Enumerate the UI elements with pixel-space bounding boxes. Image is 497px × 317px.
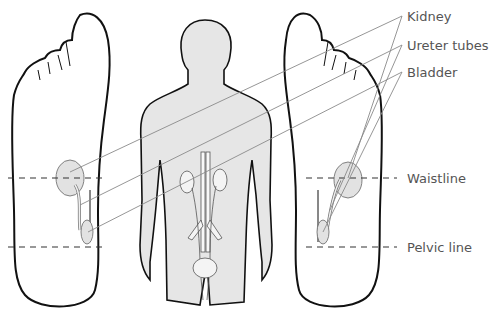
label-waistline: Waistline: [407, 172, 466, 185]
reflexology-diagram: Kidney Ureter tubes Bladder Waistline Pe…: [0, 0, 497, 317]
right-foot: [284, 14, 382, 307]
label-bladder: Bladder: [407, 66, 457, 79]
label-pelvic-line: Pelvic line: [407, 241, 472, 254]
label-ureter-tubes: Ureter tubes: [407, 39, 489, 52]
label-kidney: Kidney: [407, 10, 451, 23]
